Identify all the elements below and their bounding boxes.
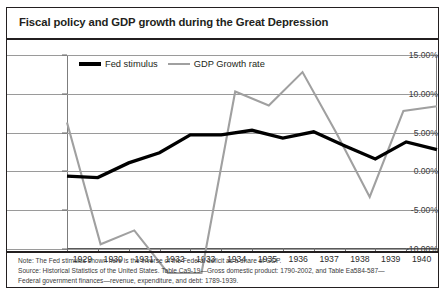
- note-line-1: Note: The Fed stimulus shown here is the…: [18, 256, 432, 266]
- chart-figure: Fiscal policy and GDP growth during the …: [6, 7, 439, 288]
- note-line-3: Federal government finances—revenue, exp…: [18, 276, 432, 286]
- plot-region: 15.00%10.00%5.00%0.00%-5.00%-10.00% 1929…: [7, 39, 438, 251]
- chart-title: Fiscal policy and GDP growth during the …: [19, 16, 328, 28]
- gdp-growth-rate-line: [67, 72, 437, 273]
- legend-line-icon-gdp-growth-rate: [168, 63, 190, 65]
- series-lines: [67, 55, 437, 249]
- chart-notes: Note: The Fed stimulus shown here is the…: [18, 256, 432, 285]
- legend-line-icon-fed-stimulus: [79, 62, 101, 65]
- gridline: [7, 249, 438, 250]
- fed-stimulus-line: [67, 130, 437, 177]
- footer-divider: [7, 251, 438, 253]
- legend-item-gdp-growth-rate: GDP Growth rate: [168, 59, 265, 69]
- chart-legend: Fed stimulus GDP Growth rate: [79, 59, 265, 69]
- legend-label-fed-stimulus: Fed stimulus: [105, 59, 158, 69]
- series-canvas: [67, 55, 437, 249]
- legend-label-gdp-growth-rate: GDP Growth rate: [194, 59, 265, 69]
- legend-item-fed-stimulus: Fed stimulus: [79, 59, 158, 69]
- note-line-2: Source: Historical Statistics of the Uni…: [18, 266, 432, 276]
